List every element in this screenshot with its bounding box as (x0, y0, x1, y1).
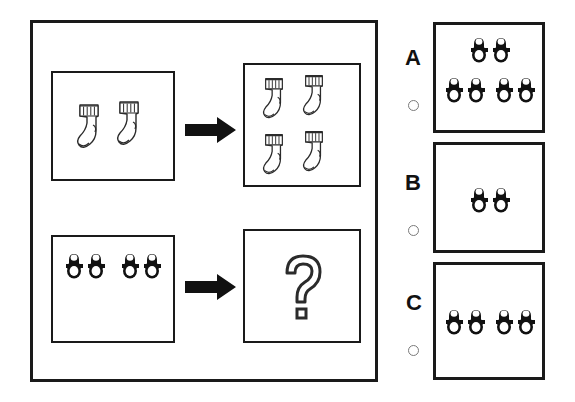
sock-icon (75, 101, 103, 153)
option-box-a[interactable] (433, 22, 545, 133)
option-letter-a: A (405, 47, 421, 69)
arrow-right-icon (185, 273, 237, 301)
sock-icon (261, 75, 287, 123)
example-left-cell (51, 71, 175, 181)
mary-jane-shoe-icon (495, 75, 537, 105)
mary-jane-shoe-icon (470, 35, 512, 65)
arrow-right-icon (185, 116, 237, 144)
mary-jane-shoe-icon (65, 251, 107, 281)
option-box-b[interactable] (433, 142, 545, 253)
sock-icon (115, 98, 143, 150)
main-puzzle-frame (30, 20, 378, 382)
question-answer-cell (243, 229, 361, 343)
question-mark-icon (281, 252, 327, 324)
mary-jane-shoe-icon (445, 75, 487, 105)
mary-jane-shoe-icon (470, 185, 512, 215)
question-left-cell (51, 235, 175, 343)
option-letter-b: B (405, 172, 421, 194)
radio-button-icon[interactable] (408, 100, 419, 111)
option-box-c[interactable] (433, 262, 545, 380)
sock-icon (301, 72, 327, 120)
radio-button-icon[interactable] (408, 345, 419, 356)
puzzle-canvas: A (0, 0, 575, 402)
option-letter-c: C (406, 292, 422, 314)
example-right-cell (243, 63, 361, 187)
sock-icon (261, 131, 287, 179)
radio-button-icon[interactable] (408, 225, 419, 236)
mary-jane-shoe-icon (121, 251, 163, 281)
mary-jane-shoe-icon (495, 307, 537, 337)
mary-jane-shoe-icon (445, 307, 487, 337)
sock-icon (301, 128, 327, 176)
